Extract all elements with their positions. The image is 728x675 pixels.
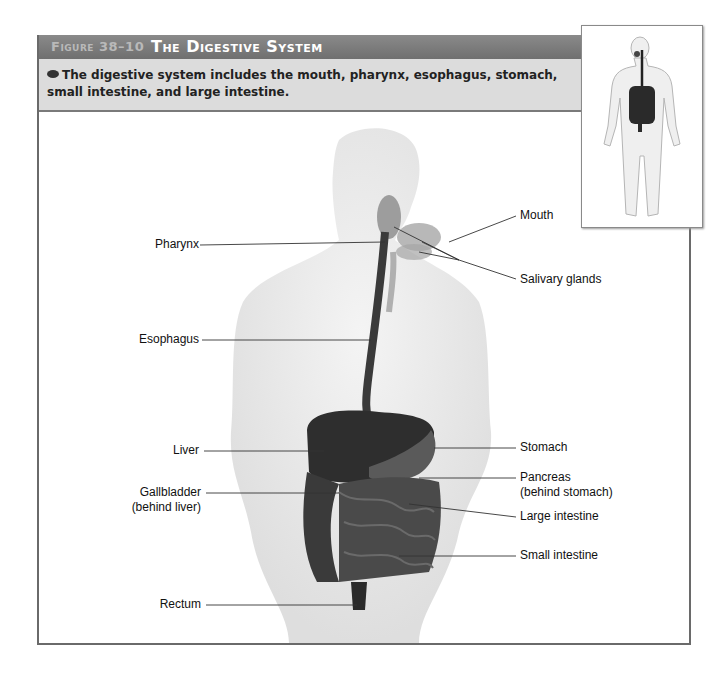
pharynx-organ [377, 195, 401, 239]
small-intestine-organ [339, 477, 441, 582]
label-pancreas-sub: (behind stomach) [520, 485, 613, 500]
label-gallbladder-main: Gallbladder [99, 485, 201, 500]
label-pancreas-main: Pancreas [520, 470, 613, 485]
bullet-icon [47, 70, 59, 78]
figure-number: Figure 38–10 [51, 39, 144, 54]
salivary-gland-organ [396, 244, 432, 260]
figure-caption: The digestive system includes the mouth,… [47, 67, 567, 101]
label-rectum: Rectum [119, 597, 201, 612]
label-small-intestine: Small intestine [520, 548, 598, 563]
locator-inset [581, 25, 703, 228]
body-locator-icon [582, 26, 702, 227]
label-stomach: Stomach [520, 440, 567, 455]
label-mouth: Mouth [520, 208, 553, 223]
label-pancreas: Pancreas (behind stomach) [520, 470, 613, 500]
label-esophagus: Esophagus [99, 332, 199, 347]
label-large-intestine: Large intestine [520, 509, 599, 524]
rectum-organ [351, 582, 367, 610]
label-gallbladder-sub: (behind liver) [99, 500, 201, 515]
label-salivary-glands: Salivary glands [520, 272, 601, 287]
caption-text: The digestive system includes the mouth,… [47, 68, 557, 99]
label-pharynx: Pharynx [119, 237, 199, 252]
label-liver: Liver [119, 443, 199, 458]
label-gallbladder: Gallbladder (behind liver) [99, 485, 201, 515]
figure-title: The Digestive System [151, 37, 323, 56]
